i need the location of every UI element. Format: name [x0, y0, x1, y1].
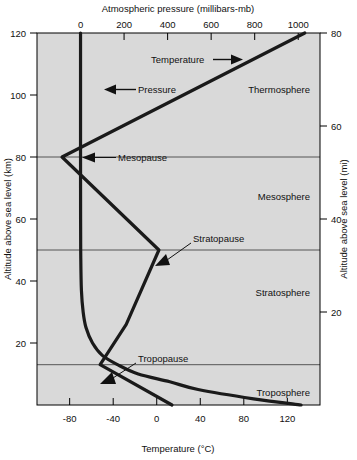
ticklabel-bottom--80: -80 [63, 413, 77, 424]
top-axis-title: Atmospheric pressure (millibars-mb) [102, 3, 255, 14]
bottom-axis-title: Temperature (°C) [142, 443, 215, 454]
atmosphere-structure-figure: Atmospheric pressure (millibars-mb) Temp… [0, 0, 357, 460]
layer-label-stratosphere: Stratosphere [256, 287, 310, 298]
ticklabel-right-40: 40 [331, 214, 342, 225]
chart-svg: Atmospheric pressure (millibars-mb) Temp… [0, 0, 357, 460]
left-axis-title: Altitude above sea level (km) [2, 158, 13, 280]
ticklabel-right-60: 60 [331, 121, 342, 132]
ticklabel-top-400: 400 [160, 19, 176, 30]
ticklabel-top-200: 200 [116, 19, 132, 30]
ticklabel-right-80: 80 [331, 28, 342, 39]
ticklabel-top-800: 800 [247, 19, 263, 30]
ticklabel-bottom-120: 120 [279, 413, 295, 424]
ticklabel-bottom-0: 0 [154, 413, 159, 424]
layer-label-troposphere: Troposphere [256, 387, 310, 398]
ticklabel-right-20: 20 [331, 307, 342, 318]
layer-label-thermosphere: Thermosphere [248, 84, 310, 95]
boundary-label-stratopause: Stratopause [193, 233, 244, 244]
ticklabel-left-20: 20 [15, 338, 26, 349]
ticklabel-top-0: 0 [78, 19, 83, 30]
ticklabel-top-1000: 1000 [288, 19, 309, 30]
ticklabel-bottom-80: 80 [239, 413, 250, 424]
series-label-pressure: Pressure [138, 84, 176, 95]
ticklabel-left-100: 100 [10, 90, 26, 101]
ticklabel-left-80: 80 [15, 152, 26, 163]
boundary-label-mesopause: Mesopause [118, 152, 167, 163]
ticklabel-left-60: 60 [15, 214, 26, 225]
ticklabel-top-600: 600 [203, 19, 219, 30]
layer-label-mesosphere: Mesosphere [258, 191, 310, 202]
ticklabel-left-40: 40 [15, 276, 26, 287]
ticklabel-bottom-40: 40 [195, 413, 206, 424]
ticklabel-bottom--40: -40 [106, 413, 120, 424]
ticklabel-left-120: 120 [10, 28, 26, 39]
boundary-label-tropopause: Tropopause [138, 353, 188, 364]
series-label-temperature: Temperature [151, 54, 204, 65]
